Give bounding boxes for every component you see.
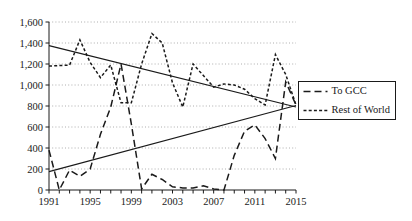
y-tick-label: 800: [27, 101, 43, 112]
legend[interactable]: To GCCRest of World: [299, 82, 396, 120]
y-tick-label: 600: [27, 122, 43, 133]
chart-container: 02004006008001,0001,2001,4001,600 199119…: [0, 0, 412, 221]
x-tick-label: 2007: [203, 196, 224, 207]
y-tick-label: 1,200: [19, 59, 43, 70]
y-tick-label: 1,000: [19, 80, 43, 91]
x-tick-label: 1995: [80, 196, 101, 207]
y-axis-tick-labels: 02004006008001,0001,2001,4001,600: [19, 17, 43, 196]
x-tick-label: 2015: [286, 196, 307, 207]
y-tick-label: 400: [27, 143, 43, 154]
y-tick-label: 200: [27, 164, 43, 175]
x-tick-label: 2003: [162, 196, 183, 207]
y-tick-label: 0: [38, 185, 43, 196]
legend-label-to-gcc[interactable]: To GCC: [332, 85, 367, 96]
x-tick-label: 1999: [121, 196, 142, 207]
x-tick-label: 2011: [245, 196, 266, 207]
y-tick-label: 1,400: [19, 38, 43, 49]
x-axis-ticks: [49, 190, 296, 194]
y-tick-label: 1,600: [19, 17, 43, 28]
line-chart: 02004006008001,0001,2001,4001,600 199119…: [0, 0, 412, 221]
x-tick-label: 1991: [39, 196, 60, 207]
x-axis-tick-labels: 1991199519992003200720112015: [39, 196, 307, 207]
legend-label-rest-of-world[interactable]: Rest of World: [332, 104, 391, 115]
plot-background: [49, 22, 296, 190]
y-axis-ticks: [46, 22, 50, 190]
